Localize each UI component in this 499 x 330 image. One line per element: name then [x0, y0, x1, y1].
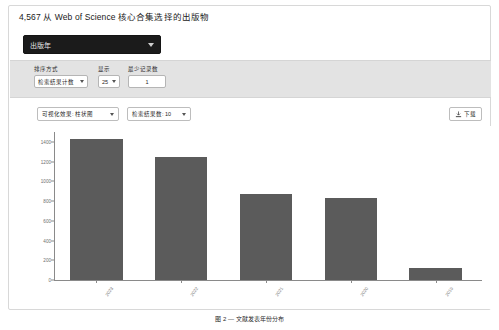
- analysis-panel: 4,567 从 Web of Science 核心合集选择的出版物 出版年 排序…: [8, 5, 491, 310]
- show-control-group: 显示 25: [98, 65, 120, 88]
- controls-strip: 排序方式 检索结果计数 显示 25 最少记录数 1: [10, 60, 491, 98]
- rows-select-value: 检索结果数: 10: [132, 110, 180, 118]
- y-axis-tick-mark: [51, 141, 54, 142]
- y-axis-tick-label: 1000: [10, 179, 54, 184]
- chevron-down-icon: [148, 43, 154, 47]
- download-button[interactable]: 下载: [449, 107, 482, 121]
- chart-bar[interactable]: [409, 268, 462, 280]
- page-title: 4,567 从 Web of Science 核心合集选择的出版物: [19, 10, 480, 22]
- sort-select-value: 检索结果计数: [38, 78, 78, 86]
- x-axis-tick-mark: [181, 280, 182, 283]
- y-axis-tick-label: 1400: [10, 139, 54, 144]
- visualization-select-value: 可视化效果: 柱状图: [42, 110, 108, 118]
- y-axis-tick-label: 600: [10, 218, 54, 223]
- y-axis-tick-mark: [51, 220, 54, 221]
- chart-bar[interactable]: [325, 198, 378, 280]
- plot-region: [54, 132, 478, 280]
- min-records-control-group: 最少记录数 1: [128, 65, 166, 88]
- x-axis: [54, 280, 482, 281]
- min-records-label: 最少记录数: [128, 65, 166, 73]
- sort-label: 排序方式: [34, 65, 88, 73]
- x-axis-tick-label: 2021: [274, 286, 284, 297]
- field-select-label: 出版年: [30, 40, 148, 50]
- y-axis-tick-label: 400: [10, 238, 54, 243]
- chevron-down-icon: [182, 113, 186, 116]
- rows-select[interactable]: 检索结果数: 10: [127, 107, 191, 121]
- download-icon: [455, 111, 462, 118]
- title-row: 4,567 从 Web of Science 核心合集选择的出版物: [9, 6, 490, 26]
- x-axis-tick-label: 2020: [359, 286, 369, 297]
- y-axis-tick-mark: [51, 240, 54, 241]
- chevron-down-icon: [112, 80, 116, 83]
- show-select-value: 25: [102, 79, 110, 85]
- x-axis-tick-mark: [266, 280, 267, 283]
- visualization-select[interactable]: 可视化效果: 柱状图: [37, 107, 119, 121]
- x-axis-tick-label: 2022: [190, 286, 200, 297]
- y-axis-tick-mark: [51, 161, 54, 162]
- y-axis-tick-label: 800: [10, 199, 54, 204]
- y-axis-tick-label: 0: [10, 278, 54, 283]
- y-axis-tick-label: 200: [10, 258, 54, 263]
- y-axis-tick-label: 1200: [10, 159, 54, 164]
- sort-select[interactable]: 检索结果计数: [34, 75, 88, 88]
- chart-bar[interactable]: [70, 139, 123, 280]
- x-axis-tick-label: 2019: [444, 286, 454, 297]
- chevron-down-icon: [80, 80, 84, 83]
- x-axis-tick-label: 2023: [105, 286, 115, 297]
- download-button-label: 下载: [464, 110, 476, 118]
- min-records-input[interactable]: 1: [128, 75, 166, 88]
- chart-bar[interactable]: [155, 157, 208, 280]
- chart-area: 0200400600800100012001400 20232022202120…: [10, 126, 491, 309]
- figure-caption: 图 2 — 文献发表年份分布: [0, 314, 499, 323]
- sort-control-group: 排序方式 检索结果计数: [34, 65, 88, 88]
- x-axis-tick-mark: [351, 280, 352, 283]
- x-axis-tick-mark: [436, 280, 437, 283]
- y-axis-tick-mark: [51, 280, 54, 281]
- show-select[interactable]: 25: [98, 75, 120, 88]
- y-axis-tick-mark: [51, 201, 54, 202]
- y-axis-tick-mark: [51, 181, 54, 182]
- chevron-down-icon: [110, 113, 114, 116]
- chart-toolbar: 可视化效果: 柱状图 检索结果数: 10 下载: [9, 104, 490, 126]
- y-axis-tick-mark: [51, 260, 54, 261]
- show-label: 显示: [98, 65, 120, 73]
- screenshot-root: 4,567 从 Web of Science 核心合集选择的出版物 出版年 排序…: [0, 0, 499, 330]
- field-select[interactable]: 出版年: [23, 35, 161, 54]
- chart-bar[interactable]: [240, 194, 293, 280]
- x-axis-tick-mark: [96, 280, 97, 283]
